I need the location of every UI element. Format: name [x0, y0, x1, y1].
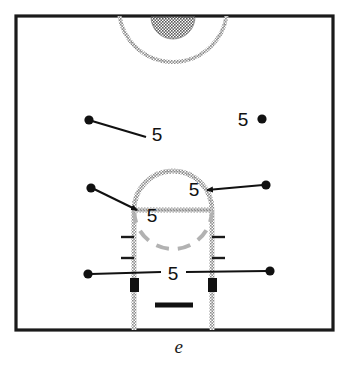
- left-lane-block: [130, 278, 139, 292]
- annotation-upper-left-dot: [84, 115, 93, 124]
- dimension-label-upper-right: 5: [238, 109, 249, 130]
- basketball-court-diagram: 5 5 5 5 5: [0, 0, 358, 375]
- figure-caption: e: [0, 336, 358, 358]
- figure-root: 5 5 5 5 5 e: [0, 0, 358, 375]
- dimension-label-free-throw-right: 5: [189, 179, 200, 200]
- annotation-free-throw-left-dot: [86, 183, 95, 192]
- dimension-label-baseline: 5: [168, 263, 179, 284]
- right-lane-block: [208, 278, 217, 292]
- annotation-baseline-dot-left: [83, 269, 92, 278]
- annotation-upper-right-dot: [257, 114, 266, 123]
- dimension-label-free-throw-left: 5: [147, 205, 158, 226]
- dimension-label-upper-left: 5: [152, 124, 163, 145]
- annotation-free-throw-right-dot: [261, 180, 270, 189]
- annotation-baseline-leader-right: [186, 271, 267, 272]
- annotation-baseline-dot-right: [265, 266, 274, 275]
